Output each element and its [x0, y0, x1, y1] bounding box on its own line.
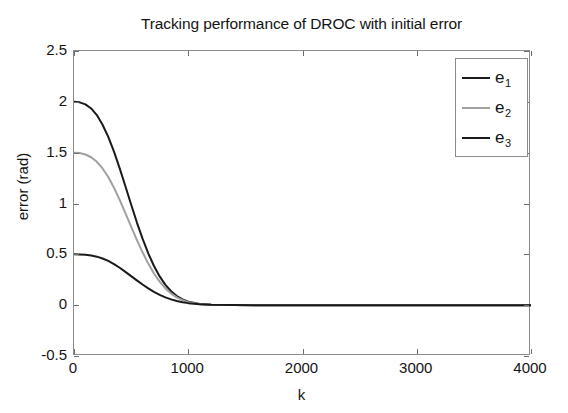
legend-item-e_1[interactable]: e1: [456, 67, 529, 89]
y-tick-mark: [74, 51, 79, 52]
legend-swatch-e_2: [462, 107, 490, 109]
y-tick-mark: [74, 254, 79, 255]
y-tick-mark: [74, 153, 79, 154]
x-tick-mark: [303, 51, 304, 56]
y-tick-mark: [74, 102, 79, 103]
figure-canvas: Tracking performance of DROC with initia…: [0, 0, 568, 413]
x-tick-label: 4000: [513, 360, 546, 376]
x-tick-mark: [417, 51, 418, 56]
x-tick-mark: [188, 349, 189, 354]
legend-swatch-e_1: [462, 77, 490, 79]
y-tick-label: 2: [1, 93, 67, 109]
legend-label-e_2: e2: [495, 99, 511, 118]
y-tick-mark: [74, 356, 79, 357]
y-tick-mark: [74, 305, 79, 306]
legend-box: e1e2e3: [455, 58, 528, 157]
y-tick-label: -0.5: [1, 347, 67, 363]
y-tick-mark: [74, 204, 79, 205]
y-tick-mark: [524, 254, 529, 255]
y-tick-label: 0.5: [1, 245, 67, 261]
x-tick-mark: [531, 51, 532, 56]
x-tick-mark: [188, 51, 189, 56]
y-tick-label: 2.5: [1, 42, 67, 58]
legend-item-e_2[interactable]: e2: [456, 97, 529, 119]
x-tick-mark: [74, 349, 75, 354]
y-axis-label: error (rad): [14, 127, 31, 247]
x-axis-label: k: [73, 386, 530, 403]
y-tick-mark: [524, 51, 529, 52]
legend-swatch-e_3: [462, 137, 490, 139]
y-tick-mark: [524, 356, 529, 357]
chart-title: Tracking performance of DROC with initia…: [73, 14, 530, 33]
x-tick-label: 3000: [399, 360, 432, 376]
y-tick-label: 1: [1, 195, 67, 211]
legend-label-e_3: e3: [495, 129, 511, 148]
x-tick-label: 2000: [285, 360, 318, 376]
y-tick-mark: [524, 204, 529, 205]
legend-item-e_3[interactable]: e3: [456, 127, 529, 149]
x-tick-mark: [531, 349, 532, 354]
x-tick-mark: [303, 349, 304, 354]
x-tick-label: 1000: [171, 360, 204, 376]
y-tick-label: 0: [1, 296, 67, 312]
series-line-e_2: [74, 153, 531, 305]
x-tick-mark: [417, 349, 418, 354]
y-tick-mark: [524, 305, 529, 306]
x-tick-label: 0: [69, 360, 77, 376]
legend-label-e_1: e1: [495, 69, 511, 88]
series-line-e_3: [74, 254, 531, 305]
y-tick-label: 1.5: [1, 144, 67, 160]
